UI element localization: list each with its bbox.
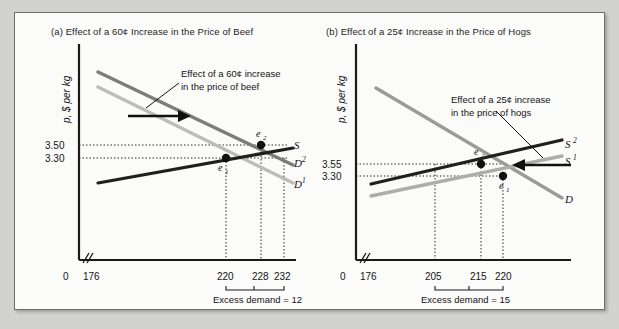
panel-b-equilibrium-point-e1 — [499, 172, 507, 180]
panel-b-xtick-205: 205 — [425, 271, 442, 282]
panel-b-origin-label: 0 — [340, 271, 346, 282]
panel-a-equilibrium-point-e1 — [222, 154, 230, 162]
panel-a-axis-break-label: 176 — [83, 271, 100, 282]
panel-a-curve-sup-d2: 2 — [302, 155, 306, 164]
panel-b-ytick-355: 3.55 — [322, 159, 342, 170]
panel-a-plot: p, $ per kg — [15, 13, 311, 311]
panel-b-x-axis-label: Q, Million kg of pork per year — [423, 310, 551, 311]
panel-a-origin-label: 0 — [63, 271, 69, 282]
panel-a-ytick-350: 3.50 — [45, 140, 65, 151]
panel-a-curve-label-d2: D — [293, 157, 302, 169]
panel-b-y-axis-label: p, $ per kg — [336, 75, 347, 124]
panel-b-plot: p, $ per kg — [311, 13, 605, 311]
panel-b-xtick-215: 215 — [470, 271, 487, 282]
page-background: (a) Effect of a 60¢ Increase in the Pric… — [0, 0, 619, 329]
panel-b-curve-label-s1: S — [565, 155, 571, 167]
panel-b-point-label-e1: e — [499, 180, 504, 191]
panel-b-annotation-line2: in the price of hogs — [451, 107, 532, 118]
panel-b-point-sub-e2: 2 — [481, 152, 485, 160]
panel-b-ytick-330: 3.30 — [322, 171, 342, 182]
panel-a-annotation-line1: Effect of a 60¢ increase — [181, 68, 281, 79]
panel-a-equilibrium-point-e2 — [257, 141, 265, 149]
panel-b-excess-demand-label: Excess demand = 15 — [421, 294, 510, 305]
panel-a-xtick-232: 232 — [274, 271, 291, 282]
panel-b-curve-sup-s2: 2 — [573, 136, 577, 145]
figure-frame: (a) Effect of a 60¢ Increase in the Pric… — [14, 12, 605, 310]
panel-b-curve-label-d: D — [564, 193, 573, 205]
panel-a-x-axis-label: Q, Million kg of pork per year — [175, 310, 303, 311]
panel-b-point-label-e2: e — [474, 146, 479, 157]
panel-b-curve-label-s2: S — [565, 138, 571, 150]
chart-panel-b: (b) Effect of a 25¢ Increase in the Pric… — [311, 13, 605, 311]
panel-a-excess-demand-label: Excess demand = 12 — [213, 294, 302, 305]
panel-a-curve-sup-d1: 1 — [302, 176, 306, 185]
panel-a-point-sub-e2: 2 — [263, 134, 267, 142]
panel-a-supply-curve-s — [98, 148, 293, 183]
panel-b-axis-break-label: 176 — [360, 271, 377, 282]
panel-a-point-label-e2: e — [256, 128, 261, 139]
panel-b-point-sub-e1: 1 — [506, 186, 510, 194]
panel-a-xtick-220: 220 — [217, 271, 234, 282]
panel-a-curve-label-d1: D — [293, 178, 302, 190]
panel-b-equilibrium-point-e2 — [477, 160, 485, 168]
panel-b-xtick-220: 220 — [495, 271, 512, 282]
panel-b-annotation-line1: Effect of a 25¢ increase — [451, 94, 551, 105]
chart-panel-a: (a) Effect of a 60¢ Increase in the Pric… — [15, 13, 311, 311]
panel-b-excess-demand-bracket — [435, 286, 503, 290]
panel-a-curve-label-s: S — [294, 139, 300, 151]
panel-a-excess-demand-bracket — [226, 286, 284, 290]
panel-a-annotation-line2: in the price of beef — [181, 81, 260, 92]
panel-b-curve-sup-s1: 1 — [573, 153, 577, 162]
panel-a-xtick-228: 228 — [252, 271, 269, 282]
panel-a-y-axis-label: p, $ per kg — [61, 75, 72, 124]
panel-a-point-label-e1: e — [218, 162, 223, 173]
panel-a-point-sub-e1: 1 — [225, 168, 229, 176]
panel-a-ytick-330: 3.30 — [45, 153, 65, 164]
